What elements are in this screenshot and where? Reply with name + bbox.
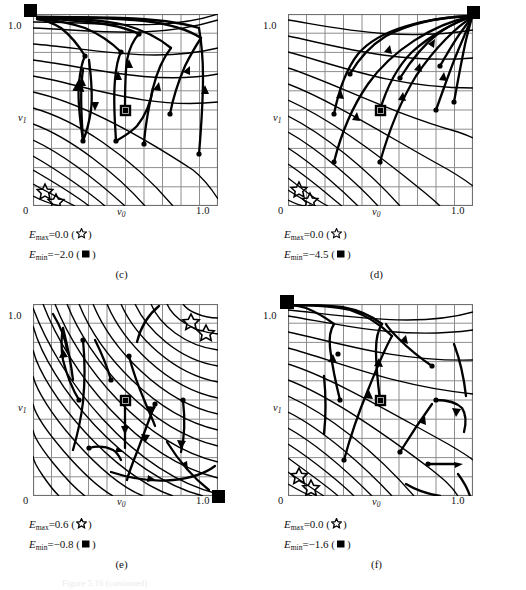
star-icon (331, 228, 342, 241)
emin-square-marker-f (280, 295, 294, 309)
panel-label-f: (f) (255, 558, 498, 570)
x-axis-tick-right-d: 1.0 (451, 205, 465, 216)
emin-square-marker-d (467, 6, 480, 19)
y-axis-label-c: v1 (18, 112, 26, 125)
energy-legend-f: Emax=0.0 () Emin=−1.6 () (284, 518, 351, 558)
emin-line-d: Emin=−4.5 () (284, 249, 351, 262)
panel-d: 1.0 0 1.0 v1 v0 Emax=0.0 () Emin=−4.5 ()… (255, 0, 498, 290)
y-axis-tick-top-f: 1.0 (263, 310, 277, 321)
origin-tick-e: 0 (23, 495, 28, 506)
origin-tick-c: 0 (23, 205, 28, 216)
x-axis-tick-right-c: 1.0 (196, 205, 210, 216)
panel-e: 1.0 0 1.0 v1 v0 Emax=0.6 () Emin=−0.8 ()… (0, 290, 243, 580)
energy-legend-d: Emax=0.0 () Emin=−4.5 () (284, 228, 351, 268)
panel-label-e: (e) (0, 558, 243, 570)
plot-area-c (33, 14, 218, 206)
figure-phase-plane-grid: 1.0 0 1.0 v1 v0 Emax=0.0 () Emin=−2.0 ()… (0, 0, 526, 590)
filled-square-icon (81, 539, 91, 551)
filled-square-icon (336, 539, 346, 551)
plot-svg-d (288, 14, 473, 206)
emax-star-markers-f (291, 468, 319, 496)
figure-caption-partial: Figure 5.16 (continued) (62, 578, 362, 588)
star-icon (76, 228, 87, 241)
y-axis-label-f: v1 (273, 402, 281, 415)
panel-f: 1.0 0 1.0 v1 v0 Emax=0.0 () Emin=−1.6 ()… (255, 290, 498, 580)
x-axis-label-f: v0 (372, 496, 380, 509)
y-axis-tick-top-d: 1.0 (263, 20, 277, 31)
x-axis-tick-right-e: 1.0 (196, 495, 210, 506)
x-axis-tick-right-f: 1.0 (451, 495, 465, 506)
emin-square-marker-c (24, 4, 37, 17)
y-axis-label-d: v1 (273, 112, 281, 125)
origin-tick-f: 0 (278, 495, 283, 506)
trajectories-d (334, 16, 472, 162)
emin-line-c: Emin=−2.0 () (29, 249, 96, 262)
panel-label-c: (c) (0, 268, 243, 280)
emax-line-e: Emax=0.6 () (29, 518, 96, 532)
plot-area-d (288, 14, 473, 206)
energy-legend-e: Emax=0.6 () Emin=−0.8 () (29, 518, 96, 558)
emin-square-marker-e (212, 490, 225, 503)
trajectories-c (37, 17, 203, 154)
x-axis-label-c: v0 (117, 206, 125, 219)
emin-line-f: Emin=−1.6 () (284, 539, 351, 552)
plot-svg-c (33, 14, 218, 206)
y-axis-tick-top-e: 1.0 (8, 310, 22, 321)
filled-square-icon (81, 249, 91, 261)
y-axis-label-e: v1 (18, 402, 26, 415)
emin-line-e: Emin=−0.8 () (29, 539, 96, 552)
energy-legend-c: Emax=0.0 () Emin=−2.0 () (29, 228, 96, 268)
y-axis-tick-top-c: 1.0 (8, 20, 22, 31)
x-axis-label-e: v0 (117, 496, 125, 509)
x-axis-label-d: v0 (372, 206, 380, 219)
emax-line-f: Emax=0.0 () (284, 518, 351, 532)
plot-svg-f (288, 304, 473, 496)
origin-tick-d: 0 (278, 205, 283, 216)
star-icon (76, 518, 87, 531)
plot-svg-e (33, 304, 218, 496)
star-icon (331, 518, 342, 531)
emax-line-c: Emax=0.0 () (29, 228, 96, 242)
panel-c: 1.0 0 1.0 v1 v0 Emax=0.0 () Emin=−2.0 ()… (0, 0, 243, 290)
trajectory-endpoints-f (335, 351, 438, 466)
filled-square-icon (336, 249, 346, 261)
emax-star-markers-d (291, 182, 318, 206)
plot-area-e (33, 304, 218, 496)
panel-label-d: (d) (255, 268, 498, 280)
plot-area-f (288, 304, 473, 496)
emax-line-d: Emax=0.0 () (284, 228, 351, 242)
